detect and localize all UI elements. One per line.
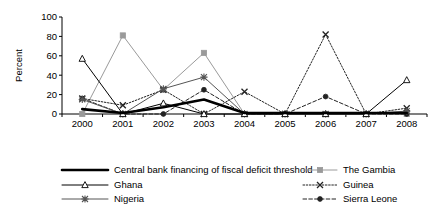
data-point-marker (323, 31, 329, 37)
y-axis-tick-label: 40 (46, 70, 57, 81)
x-axis-tick-label: 2008 (396, 118, 417, 129)
x-axis-tick-label: 2001 (112, 118, 133, 129)
x-axis-tick-label: 2002 (153, 118, 174, 129)
data-point-marker (79, 55, 85, 61)
x-axis-tick-label: 2004 (234, 118, 255, 129)
data-point-marker (200, 74, 207, 81)
y-axis-tick-label: 60 (46, 50, 57, 61)
y-axis-tick-label: 20 (46, 89, 57, 100)
data-point-marker (318, 197, 323, 202)
line-chart: 0204060801002000200120022003200420052006… (0, 0, 436, 211)
legend-item-sierra-leone[interactable]: Sierra Leone (303, 193, 397, 204)
data-point-marker (160, 85, 167, 92)
legend-item-ghana[interactable]: Ghana (62, 179, 143, 190)
y-axis-tick-label: 80 (46, 31, 57, 42)
series-ghana (79, 55, 410, 116)
legend-item-central-bank-financing-of-fiscal-deficit-threshold[interactable]: Central bank financing of fiscal deficit… (62, 164, 313, 175)
legend: Central bank financing of fiscal deficit… (62, 164, 397, 204)
legend-item-the-gambia[interactable]: The Gambia (303, 164, 396, 175)
legend-item-guinea[interactable]: Guinea (303, 179, 374, 190)
data-point-marker (201, 50, 206, 55)
x-axis-tick-label: 2000 (72, 118, 93, 129)
series-the-gambia (80, 33, 410, 117)
x-axis-tick-label: 2003 (193, 118, 214, 129)
legend-item-nigeria[interactable]: Nigeria (62, 193, 145, 204)
legend-label: Ghana (114, 179, 143, 190)
x-axis-tick-label: 2007 (356, 118, 377, 129)
data-point-marker (120, 33, 125, 38)
legend-label: The Gambia (343, 164, 396, 175)
data-point-marker (160, 100, 166, 106)
data-point-marker (242, 89, 248, 95)
data-point-marker (202, 87, 207, 92)
data-point-marker (80, 111, 85, 116)
data-point-marker (81, 195, 88, 202)
y-axis-title: Percent (13, 49, 24, 82)
data-point-marker (404, 77, 410, 83)
legend-label: Guinea (343, 179, 374, 190)
x-axis-tick-label: 2005 (274, 118, 295, 129)
legend-label: Nigeria (114, 193, 145, 204)
data-point-marker (317, 167, 322, 172)
y-axis-tick-label: 100 (41, 11, 57, 22)
chart-figure: 0204060801002000200120022003200420052006… (0, 0, 436, 211)
data-point-marker (161, 112, 166, 117)
data-point-marker (79, 96, 86, 103)
legend-label: Central bank financing of fiscal deficit… (114, 164, 313, 175)
series-line (82, 59, 406, 114)
legend-label: Sierra Leone (343, 193, 397, 204)
y-axis-tick-label: 0 (52, 108, 57, 119)
data-point-marker (323, 94, 328, 99)
series-line (82, 77, 406, 114)
x-axis-tick-label: 2006 (315, 118, 336, 129)
